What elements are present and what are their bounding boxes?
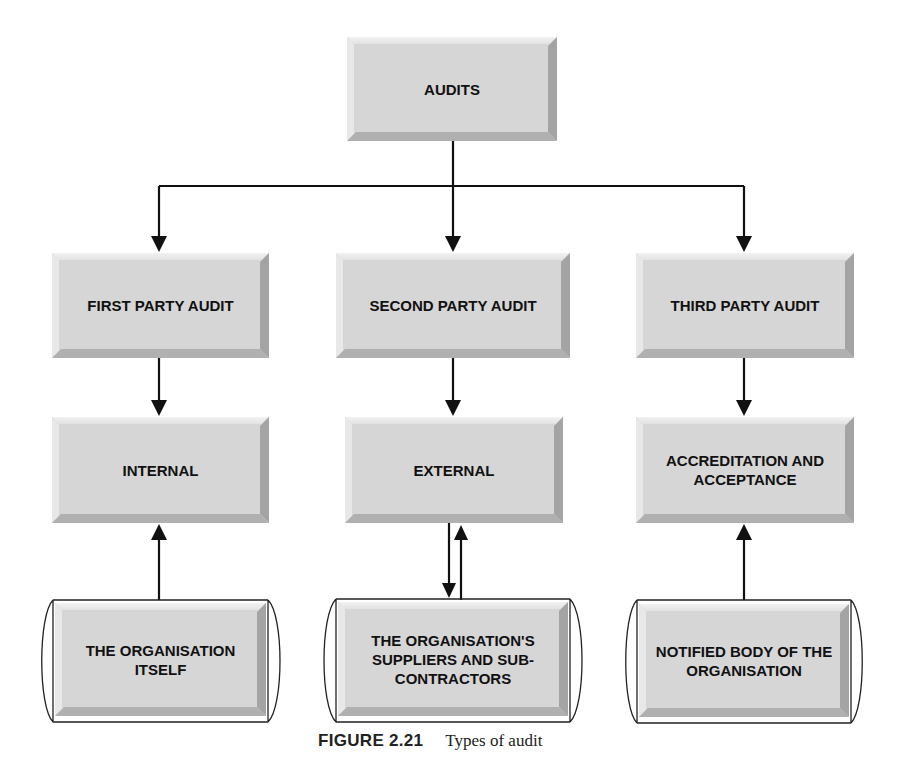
node-label: AUDITS xyxy=(410,80,494,99)
arrowhead-up xyxy=(151,524,167,540)
node-label: FIRST PARTY AUDIT xyxy=(73,296,247,315)
node-second-party-audit: SECOND PARTY AUDIT xyxy=(336,253,570,358)
node-third-party-audit: THIRD PARTY AUDIT xyxy=(636,253,854,358)
node-label: THE ORGANISATION'S SUPPLIERS AND SUB-CON… xyxy=(338,631,568,688)
node-label: THIRD PARTY AUDIT xyxy=(657,296,834,315)
arrowhead-down xyxy=(151,400,167,416)
arrowhead-up xyxy=(454,525,468,540)
arrowhead-down xyxy=(442,583,456,598)
arrowhead-down xyxy=(736,400,752,416)
node-internal: INTERNAL xyxy=(52,417,269,523)
node-label: INTERNAL xyxy=(109,461,213,480)
node-label: THE ORGANISATION ITSELF xyxy=(55,641,266,679)
figure-number: FIGURE 2.21 xyxy=(318,731,423,750)
node-label: SECOND PARTY AUDIT xyxy=(355,296,550,315)
arrowhead-up xyxy=(736,524,752,540)
node-external: EXTERNAL xyxy=(345,417,563,523)
node-first-party-audit: FIRST PARTY AUDIT xyxy=(52,253,269,358)
node-accreditation-and-acceptance: ACCREDITATION AND ACCEPTANCE xyxy=(636,417,854,523)
arrowhead-down xyxy=(151,236,167,252)
arrowhead-down xyxy=(445,400,461,416)
node-the-organisation-itself: THE ORGANISATION ITSELF xyxy=(55,603,266,716)
arrowhead-down xyxy=(445,236,461,252)
node-audits: AUDITS xyxy=(347,37,557,141)
node-suppliers-and-subcontractors: THE ORGANISATION'S SUPPLIERS AND SUB-CON… xyxy=(338,602,568,716)
figure-caption: FIGURE 2.21Types of audit xyxy=(318,731,590,751)
node-label: EXTERNAL xyxy=(400,461,509,480)
arrowhead-down xyxy=(736,236,752,252)
figure-title: Types of audit xyxy=(445,731,542,750)
node-notified-body: NOTIFIED BODY OF THE ORGANISATION xyxy=(639,604,849,717)
node-label: NOTIFIED BODY OF THE ORGANISATION xyxy=(639,642,849,680)
node-label: ACCREDITATION AND ACCEPTANCE xyxy=(636,451,854,489)
audit-types-diagram: AUDITS FIRST PARTY AUDIT SECOND PARTY AU… xyxy=(0,0,908,771)
